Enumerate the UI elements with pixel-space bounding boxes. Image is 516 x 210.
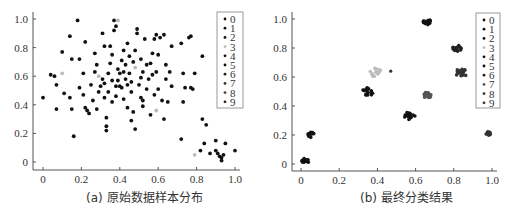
legend-marker: [224, 27, 227, 30]
y-tick-label: 0: [23, 156, 29, 168]
legend-marker: [224, 54, 227, 57]
legend-marker: [224, 36, 227, 39]
caption-a: (a) 原始数据样本分布: [86, 188, 203, 205]
x-tick-label: 1.0: [228, 173, 242, 185]
legend: 0123456789: [476, 13, 500, 109]
scatter-plot-b: 00.20.40.60.81.000.20.40.60.81.001234567…: [273, 12, 500, 186]
y-tick-label: 0.2: [14, 127, 28, 139]
legend-marker: [483, 28, 486, 31]
legend-marker: [483, 92, 486, 95]
x-tick-label: 0.8: [190, 173, 204, 185]
legend-marker: [483, 83, 486, 86]
x-tick-label: 1.0: [485, 174, 499, 186]
y-tick-label: 0.4: [14, 99, 28, 111]
caption-b: (b) 最终分类结果: [360, 188, 453, 205]
data-points: [41, 19, 237, 163]
legend-marker: [224, 18, 227, 21]
legend-marker: [224, 64, 227, 67]
legend-marker: [483, 74, 486, 77]
legend-marker: [483, 101, 486, 104]
figure: 00.20.40.60.81.000.20.40.60.81.001234567…: [0, 0, 516, 210]
y-tick-label: 1.0: [273, 13, 287, 25]
legend-marker: [483, 55, 486, 58]
y-tick-label: 1.0: [14, 13, 28, 25]
x-tick-label: 0.4: [371, 174, 385, 186]
legend-label: 9: [230, 96, 236, 108]
legend-marker: [483, 37, 486, 40]
y-tick-label: 0.2: [273, 129, 287, 141]
y-tick-label: 0.4: [273, 100, 287, 112]
legend-marker: [483, 65, 486, 68]
legend: 0123456789: [217, 12, 243, 108]
data-points: [300, 18, 492, 164]
legend-marker: [224, 91, 227, 94]
y-tick-label: 0.6: [273, 71, 287, 83]
y-tick-label: 0: [282, 158, 288, 170]
legend-marker: [224, 45, 227, 48]
legend-marker: [483, 19, 486, 22]
x-tick-label: 0.8: [447, 174, 461, 186]
legend-marker: [224, 100, 227, 103]
legend-label: 9: [489, 97, 495, 109]
y-tick-label: 0.8: [273, 42, 287, 54]
x-tick-label: 0.4: [113, 173, 127, 185]
legend-marker: [224, 73, 227, 76]
x-tick-label: 0: [298, 174, 304, 186]
x-tick-label: 0.2: [75, 173, 89, 185]
x-tick-label: 0.6: [409, 174, 423, 186]
x-tick-label: 0.2: [332, 174, 346, 186]
y-tick-label: 0.8: [14, 42, 28, 54]
x-tick-label: 0: [40, 173, 46, 185]
legend-marker: [224, 82, 227, 85]
y-tick-label: 0.6: [14, 70, 28, 82]
scatter-plot-a: 00.20.40.60.81.000.20.40.60.81.001234567…: [14, 12, 243, 185]
legend-marker: [483, 46, 486, 49]
x-tick-label: 0.6: [151, 173, 165, 185]
